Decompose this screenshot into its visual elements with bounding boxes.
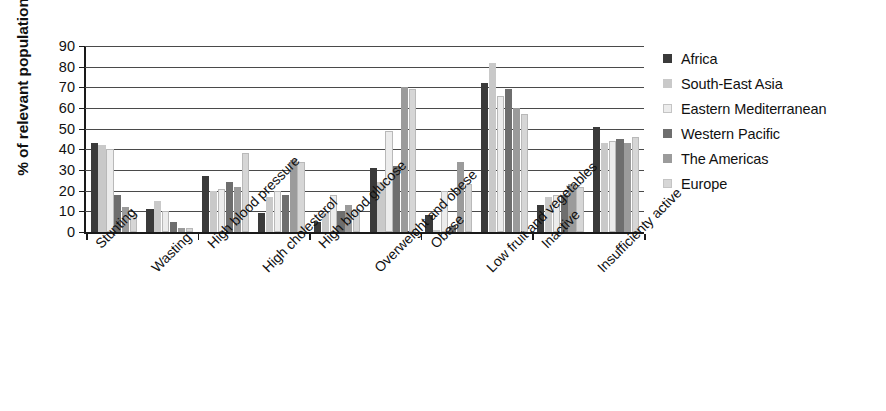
x-axis-label: Wasting bbox=[148, 229, 194, 275]
legend-label: South-East Asia bbox=[681, 76, 783, 92]
y-tick-label-20: 20 bbox=[59, 183, 75, 198]
legend-label: Eastern Mediterranean bbox=[681, 101, 826, 117]
bar bbox=[632, 137, 639, 232]
bar bbox=[274, 191, 281, 232]
y-tick-mark-50 bbox=[79, 129, 85, 130]
legend-label: Africa bbox=[681, 51, 717, 67]
y-tick-mark-70 bbox=[79, 87, 85, 88]
y-tick-mark-10 bbox=[79, 211, 85, 212]
legend-swatch-icon bbox=[663, 179, 672, 188]
y-tick-label-70: 70 bbox=[59, 80, 75, 95]
legend-swatch-icon bbox=[663, 54, 672, 63]
y-tick-mark-60 bbox=[79, 108, 85, 109]
bar-group bbox=[142, 46, 198, 232]
y-tick-label-90: 90 bbox=[59, 39, 75, 54]
y-tick-mark-20 bbox=[79, 191, 85, 192]
legend-label: Western Pacific bbox=[681, 126, 780, 142]
bar-group bbox=[588, 46, 644, 232]
bar bbox=[505, 89, 512, 232]
x-axis-labels: StuntingWastingHigh blood pressureHigh c… bbox=[84, 238, 664, 368]
bar bbox=[521, 114, 528, 232]
y-tick-label-30: 30 bbox=[59, 163, 75, 178]
bar bbox=[593, 127, 600, 232]
y-tick-label-10: 10 bbox=[59, 204, 75, 219]
y-tick-mark-30 bbox=[79, 170, 85, 171]
legend-item[interactable]: South-East Asia bbox=[663, 71, 883, 96]
bar bbox=[489, 63, 496, 232]
bar bbox=[624, 143, 631, 232]
bar bbox=[601, 143, 608, 232]
bar bbox=[98, 145, 105, 232]
y-axis-title: % of relevant population bbox=[14, 0, 32, 202]
bar bbox=[409, 89, 416, 232]
bar bbox=[576, 187, 583, 232]
bar-group bbox=[477, 46, 533, 232]
bar bbox=[186, 228, 193, 232]
legend-swatch-icon bbox=[663, 154, 672, 163]
legend-swatch-icon bbox=[663, 129, 672, 138]
legend-item[interactable]: Eastern Mediterranean bbox=[663, 96, 883, 121]
bar bbox=[210, 191, 217, 232]
legend-label: The Americas bbox=[681, 151, 768, 167]
legend-item[interactable]: Western Pacific bbox=[663, 121, 883, 146]
bar bbox=[497, 96, 504, 232]
chart-legend: AfricaSouth-East AsiaEastern Mediterrane… bbox=[663, 46, 883, 196]
y-tick-mark-80 bbox=[79, 67, 85, 68]
bar bbox=[258, 213, 265, 232]
y-tick-label-60: 60 bbox=[59, 101, 75, 116]
y-tick-mark-90 bbox=[79, 46, 85, 47]
bar bbox=[513, 108, 520, 232]
legend-item[interactable]: Africa bbox=[663, 46, 883, 71]
bar bbox=[162, 211, 169, 232]
bar-chart-figure: % of relevant population 908070605040302… bbox=[0, 0, 886, 411]
bar bbox=[282, 195, 289, 232]
y-tick-mark-0 bbox=[79, 232, 85, 233]
bar bbox=[616, 139, 623, 232]
bar bbox=[154, 201, 161, 232]
legend-item[interactable]: The Americas bbox=[663, 146, 883, 171]
bar bbox=[609, 141, 616, 232]
bar-group bbox=[86, 46, 142, 232]
bar bbox=[202, 176, 209, 232]
y-tick-label-40: 40 bbox=[59, 142, 75, 157]
bar bbox=[266, 197, 273, 232]
legend-swatch-icon bbox=[663, 79, 672, 88]
bar bbox=[146, 209, 153, 232]
bar bbox=[170, 222, 177, 232]
legend-item[interactable]: Europe bbox=[663, 171, 883, 196]
legend-swatch-icon bbox=[663, 104, 672, 113]
bar bbox=[401, 87, 408, 232]
legend-label: Europe bbox=[681, 176, 727, 192]
y-tick-mark-40 bbox=[79, 149, 85, 150]
bar bbox=[481, 83, 488, 232]
y-tick-label-50: 50 bbox=[59, 121, 75, 136]
y-tick-label-0: 0 bbox=[67, 225, 75, 240]
y-tick-label-80: 80 bbox=[59, 59, 75, 74]
bar bbox=[91, 143, 98, 232]
